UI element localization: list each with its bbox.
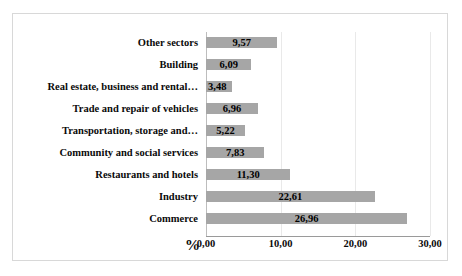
bar-value-label: 6,09 <box>206 59 251 70</box>
bar-container: 6,09 <box>206 54 251 76</box>
x-axis-unit-label: % <box>185 236 200 254</box>
bar-row: Trade and repair of vehicles6,96 <box>13 98 430 120</box>
plot-area: Other sectors9,57Building6,09Real estate… <box>206 32 430 236</box>
bar-row: Real estate, business and rental…3,48 <box>13 76 430 98</box>
bar-value-label: 9,57 <box>206 37 277 48</box>
bar-value-label: 22,61 <box>206 191 375 202</box>
bar-row: Building6,09 <box>13 54 430 76</box>
bar-container: 6,96 <box>206 98 258 120</box>
x-tick-label: 20,00 <box>344 238 368 249</box>
category-label: Other sectors <box>13 32 201 54</box>
bar-value-label: 7,83 <box>206 147 264 158</box>
bar-row: Other sectors9,57 <box>13 32 430 54</box>
category-label: Industry <box>13 186 201 208</box>
bar-value-label: 5,22 <box>206 125 245 136</box>
x-axis-ticks: 0,0010,0020,0030,00 <box>206 238 456 256</box>
bar-row: Industry22,61 <box>13 186 430 208</box>
chart-frame: Other sectors9,57Building6,09Real estate… <box>12 13 448 261</box>
x-tick-label: 30,00 <box>418 238 442 249</box>
category-label: Trade and repair of vehicles <box>13 98 201 120</box>
bar-value-label: 6,96 <box>206 103 258 114</box>
category-label: Commerce <box>13 208 201 230</box>
bar-value-label: 26,96 <box>206 213 407 224</box>
bar-container: 3,48 <box>206 76 232 98</box>
category-label: Community and social services <box>13 142 201 164</box>
gridline <box>430 32 431 236</box>
bar-container: 7,83 <box>206 142 264 164</box>
category-label: Transportation, storage and… <box>13 120 201 142</box>
category-label: Real estate, business and rental… <box>13 76 201 98</box>
bar-value-label: 3,48 <box>206 81 248 92</box>
bar-container: 9,57 <box>206 32 277 54</box>
bar-row: Community and social services7,83 <box>13 142 430 164</box>
category-label: Building <box>13 54 201 76</box>
bar-row: Restaurants and hotels11,30 <box>13 164 430 186</box>
bar-row: Commerce26,96 <box>13 208 430 230</box>
bar-row: Transportation, storage and…5,22 <box>13 120 430 142</box>
category-label: Restaurants and hotels <box>13 164 201 186</box>
bar-container: 5,22 <box>206 120 245 142</box>
x-axis-line <box>206 236 430 237</box>
x-tick-label: 10,00 <box>269 238 293 249</box>
bar-value-label: 11,30 <box>206 169 290 180</box>
bar-container: 22,61 <box>206 186 375 208</box>
bar-container: 26,96 <box>206 208 407 230</box>
bar-container: 11,30 <box>206 164 290 186</box>
